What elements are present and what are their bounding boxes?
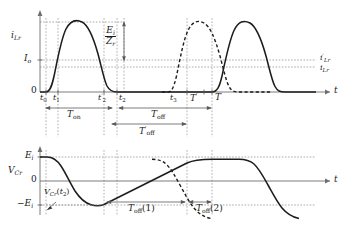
interval-label-t-off: Toff xyxy=(151,110,165,120)
bottom-y-axis-label: VCr xyxy=(8,166,22,176)
interval-label-t-on: Ton xyxy=(67,110,81,120)
y-tick-label-ei: Ei xyxy=(25,151,34,161)
time-tick-t2: t2 xyxy=(119,94,126,103)
time-tick-t2-prime: t′2 xyxy=(98,94,106,103)
off-interval-label-2: Toff(2) xyxy=(196,204,223,214)
capacitor-voltage-solid xyxy=(40,157,299,219)
top-x-axis-label: t xyxy=(334,86,338,95)
time-tick-T-prime: T′ xyxy=(190,93,197,103)
vcr-t2-pointer xyxy=(47,202,56,210)
top-y-axis-arrow xyxy=(38,10,43,16)
waveform-diagram-svg xyxy=(0,0,348,237)
amplitude-label-ei-over-zr: EiZr xyxy=(105,26,116,47)
bottom-x-axis-arrow xyxy=(325,179,330,184)
current-waveform-solid xyxy=(40,21,316,92)
y-tick-label-zero-top: 0 xyxy=(31,86,37,95)
top-plot-axes xyxy=(38,10,330,94)
time-tick-t0: t0 xyxy=(40,94,47,103)
right-label-i-lr: iLr xyxy=(320,64,329,73)
time-tick-t3: t3 xyxy=(170,94,177,103)
right-label-i-prime-lr: i′Lr xyxy=(320,54,330,63)
bottom-y-axis-arrow xyxy=(38,146,43,152)
amplitude-dimension xyxy=(122,21,126,62)
top-plot-horizontal-guides xyxy=(40,22,316,67)
y-tick-label-io: Io xyxy=(24,54,31,64)
figure-root: iLr Io 0 EiZr i′Lr iLr t t0 t1 t′2 t2 t3… xyxy=(0,0,348,237)
current-waveform-dashed xyxy=(162,21,271,92)
top-x-axis-arrow xyxy=(325,90,330,95)
time-tick-t1: t1 xyxy=(53,94,60,103)
bottom-x-axis-label: t xyxy=(334,175,338,184)
y-tick-label-neg-ei: −Ei xyxy=(17,199,33,209)
off-interval-label-1: Toff(1) xyxy=(128,204,155,214)
time-tick-T: T xyxy=(215,93,221,102)
y-tick-label-zero-bottom: 0 xyxy=(31,175,37,184)
top-y-axis-label: iLr xyxy=(11,31,21,41)
annotation-vcr-t2: VCr(t2) xyxy=(44,188,69,197)
interval-label-t-off-prime: T′off xyxy=(139,126,155,137)
